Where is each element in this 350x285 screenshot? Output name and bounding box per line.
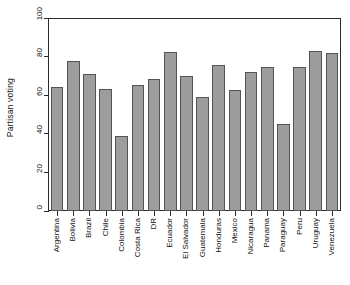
x-axis-label-text: Colombia [118,218,126,252]
y-axis-tick-label-text: 20 [36,164,44,173]
bar [196,97,209,211]
bar [115,136,128,211]
x-axis-label: Chile [100,218,112,282]
x-axis-label-text: Guatemala [199,218,207,257]
y-axis-tick-label: 0 [22,202,44,212]
x-axis-tick [283,211,284,216]
x-axis-label-text: Uruguay [312,218,320,248]
x-axis-tick [300,211,301,216]
bar [67,61,80,211]
x-axis-tick [267,211,268,216]
x-axis-tick [154,211,155,216]
x-axis-label-text: Mexico [231,218,239,243]
x-axis-tick [89,211,90,216]
x-axis-tick [251,211,252,216]
x-axis-label: El Salvador [180,218,192,282]
x-axis-label: Venezuela [326,218,338,282]
x-axis-label-text: Nicaragua [247,218,255,254]
x-axis-tick [138,211,139,216]
bar [229,90,242,211]
bar [164,52,177,211]
x-axis-label-text: Argentina [53,218,61,252]
bar [132,85,145,211]
bar [51,87,64,211]
bar-series [49,19,340,211]
y-axis-tick-label: 100 [22,9,44,19]
y-axis-tick-label-text: 100 [36,7,44,20]
y-axis-title-text: Partisan voting [5,78,15,137]
y-axis-tick-label: 40 [22,125,44,135]
x-axis-tick [73,211,74,216]
x-axis-tick [332,211,333,216]
x-axis-label: Uruguay [310,218,322,282]
x-axis-label-text: Ecuador [166,218,174,248]
bar [326,53,339,211]
x-axis-label-text: Brazil [85,218,93,238]
x-axis-label-text: Paraguay [279,218,287,252]
x-axis-tick [203,211,204,216]
x-axis-tick [106,211,107,216]
y-axis-tick-label-text: 60 [36,87,44,96]
x-axis-label-text: El Salvador [182,218,190,259]
x-axis-label: Paraguay [277,218,289,282]
x-axis-tick [186,211,187,216]
x-axis-label: Brazil [83,218,95,282]
x-axis-label-text: Chile [102,218,110,236]
bar [245,72,258,211]
y-axis-title: Partisan voting [0,0,20,215]
x-axis-label: Costa Rica [132,218,144,282]
x-axis-tick [57,211,58,216]
x-axis-tick [122,211,123,216]
x-axis-label-text: Peru [296,218,304,235]
x-axis-label-text: DR [150,218,158,230]
x-axis-label: Argentina [51,218,63,282]
y-axis-tick-label: 20 [22,163,44,173]
x-axis-label-text: Venezuela [328,218,336,255]
x-axis-tick [235,211,236,216]
bar [99,89,112,211]
bar [212,65,225,211]
x-axis-label: DR [148,218,160,282]
x-axis-label: Panama [261,218,273,282]
x-axis-label: Ecuador [164,218,176,282]
bar [148,79,161,211]
x-axis-tick [170,211,171,216]
x-axis-label: Colombia [116,218,128,282]
x-axis-label: Mexico [229,218,241,282]
bar [309,51,322,211]
x-axis-label: Nicaragua [245,218,257,282]
bar [277,124,290,211]
x-axis-tick [219,211,220,216]
x-axis-tick [316,211,317,216]
x-axis-label: Bolivia [67,218,79,282]
bar [293,67,306,211]
x-axis-label-text: Bolivia [69,218,77,242]
y-axis-tick-label-text: 40 [36,125,44,134]
x-axis-label: Honduras [213,218,225,282]
bar [83,74,96,211]
y-axis-tick-label: 60 [22,86,44,96]
bar-chart-figure: Partisan voting 020406080100 ArgentinaBo… [0,0,350,285]
bar [261,67,274,211]
y-axis-tick-label: 80 [22,48,44,58]
x-axis-label: Guatemala [197,218,209,282]
y-axis-tick-label-text: 0 [36,205,44,209]
x-axis-label-text: Honduras [215,218,223,253]
x-axis-label-text: Costa Rica [134,218,142,257]
y-axis-tick-label-text: 80 [36,48,44,57]
x-axis-label: Peru [294,218,306,282]
bar [180,76,193,211]
x-axis-label-text: Panama [263,218,271,248]
